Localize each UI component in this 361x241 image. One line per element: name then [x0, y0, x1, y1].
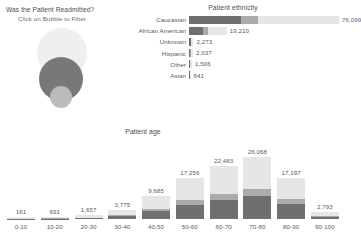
age-bar-segment — [176, 178, 204, 200]
ethnicity-category-label: Unknown — [120, 38, 189, 45]
ethnicity-bar-segment — [208, 27, 227, 35]
patient-ethnicity-chart: Caucasian76,099African American19,210Unk… — [120, 15, 346, 82]
age-bar-segment — [210, 200, 238, 219]
ethnicity-row[interactable]: Hispanic2,037 — [120, 48, 346, 58]
ethnicity-bar[interactable] — [189, 16, 339, 24]
age-bar-segment — [142, 196, 170, 209]
age-bar[interactable] — [142, 196, 170, 219]
ethnicity-bar-segment — [189, 27, 203, 35]
ethnicity-row[interactable]: Caucasian76,099 — [120, 15, 346, 25]
ethnicity-bar[interactable] — [189, 60, 192, 68]
patient-age-axis: 0-1010-2020-3030-4040-5050-6060-7070-808… — [6, 223, 340, 235]
ethnicity-bar[interactable] — [189, 49, 193, 57]
age-value-label: 22,483 — [209, 157, 239, 164]
age-bar-segment — [75, 218, 103, 219]
ethnicity-value-label: 1,506 — [195, 60, 211, 67]
ethnicity-category-label: Hispanic — [120, 50, 189, 57]
ethnicity-value-label: 2,273 — [196, 38, 212, 45]
age-value-label: 17,197 — [276, 169, 306, 176]
age-bar[interactable] — [311, 212, 339, 219]
age-value-label: 2,793 — [310, 203, 340, 210]
ethnicity-bar[interactable] — [189, 71, 191, 79]
ethnicity-category-label: Other — [120, 61, 189, 68]
ethnicity-category-label: African American — [120, 27, 189, 34]
ethnicity-row[interactable]: African American19,210 — [120, 26, 346, 36]
age-bar-segment — [108, 216, 136, 219]
age-bar[interactable] — [277, 178, 305, 219]
readmitted-under-30-bubble[interactable] — [50, 86, 72, 108]
ethnicity-bar-track: 1,506 — [189, 60, 346, 68]
age-column[interactable]: 1,657 — [74, 141, 104, 219]
ethnicity-category-label: Caucasian — [120, 16, 189, 23]
age-value-label: 17,256 — [175, 169, 205, 176]
patient-age-title: Patient age — [0, 128, 346, 135]
age-axis-tick: 40-50 — [141, 223, 171, 235]
age-value-label: 1,657 — [74, 206, 104, 213]
age-bar[interactable] — [75, 215, 103, 219]
patient-age-chart: 1616911,6573,7759,68517,25622,48326,0681… — [6, 141, 340, 219]
ethnicity-bar-track: 2,037 — [189, 49, 346, 57]
ethnicity-row[interactable]: Asian641 — [120, 70, 346, 80]
age-axis-tick: 50-60 — [175, 223, 205, 235]
ethnicity-row[interactable]: Other1,506 — [120, 59, 346, 69]
age-bar[interactable] — [108, 210, 136, 219]
age-column[interactable]: 22,483 — [209, 141, 239, 219]
age-bar-segment — [210, 166, 238, 194]
age-column[interactable]: 161 — [6, 141, 36, 219]
patient-age-panel: Patient age 1616911,6573,7759,68517,2562… — [0, 125, 346, 241]
age-axis-tick: 30-40 — [107, 223, 137, 235]
age-bar-segment — [243, 196, 271, 219]
age-column[interactable]: 691 — [40, 141, 70, 219]
age-column[interactable]: 17,256 — [175, 141, 205, 219]
age-axis-tick: 0-10 — [6, 223, 36, 235]
age-axis-tick: 20-30 — [74, 223, 104, 235]
ethnicity-bar[interactable] — [189, 27, 227, 35]
age-value-label: 9,685 — [141, 187, 171, 194]
age-value-label: 161 — [6, 208, 36, 215]
ethnicity-row[interactable]: Unknown2,273 — [120, 37, 346, 47]
age-bar-segment — [311, 217, 339, 219]
age-bar[interactable] — [176, 178, 204, 219]
age-axis-tick: 70-80 — [242, 223, 272, 235]
ethnicity-bar-segment — [190, 60, 192, 68]
age-column[interactable]: 9,685 — [141, 141, 171, 219]
ethnicity-bar-segment — [191, 38, 193, 46]
ethnicity-bar-segment — [190, 71, 191, 79]
age-value-label: 691 — [40, 208, 70, 215]
age-axis-tick: 90-100 — [310, 223, 340, 235]
age-bar-segment — [243, 189, 271, 196]
ethnicity-bar-segment — [258, 16, 339, 24]
age-bar[interactable] — [7, 217, 35, 219]
age-axis-tick: 80-90 — [276, 223, 306, 235]
age-bar[interactable] — [210, 166, 238, 219]
age-bar[interactable] — [243, 157, 271, 219]
ethnicity-bar-segment — [241, 16, 257, 24]
ethnicity-value-label: 641 — [194, 72, 204, 79]
age-bar-segment — [243, 157, 271, 189]
age-bar-segment — [142, 211, 170, 219]
age-column[interactable]: 2,793 — [310, 141, 340, 219]
ethnicity-value-label: 76,099 — [342, 16, 361, 23]
age-bar-segment — [277, 204, 305, 219]
bubble-panel-subtitle: Click on Bubble to Filter — [18, 15, 86, 22]
bubble-panel-title: Was the Patient Readmitted? — [6, 6, 94, 13]
age-bar[interactable] — [41, 217, 69, 219]
ethnicity-bar-track: 19,210 — [189, 27, 346, 35]
age-axis-tick: 10-20 — [40, 223, 70, 235]
age-column[interactable]: 3,775 — [107, 141, 137, 219]
ethnicity-value-label: 19,210 — [230, 27, 249, 34]
ethnicity-value-label: 2,037 — [196, 49, 212, 56]
ethnicity-category-label: Asian — [120, 72, 189, 79]
ethnicity-bar-track: 641 — [189, 71, 346, 79]
ethnicity-bar-track: 76,099 — [189, 16, 346, 24]
age-value-label: 26,068 — [242, 148, 272, 155]
patient-ethnicity-title: Patient ethnicity — [120, 4, 346, 11]
ethnicity-bar-segment — [191, 49, 193, 57]
age-axis-tick: 60-70 — [209, 223, 239, 235]
age-bar-segment — [277, 178, 305, 199]
age-column[interactable]: 26,068 — [242, 141, 272, 219]
ethnicity-bar[interactable] — [189, 38, 193, 46]
age-column[interactable]: 17,197 — [276, 141, 306, 219]
ethnicity-bar-track: 2,273 — [189, 38, 346, 46]
